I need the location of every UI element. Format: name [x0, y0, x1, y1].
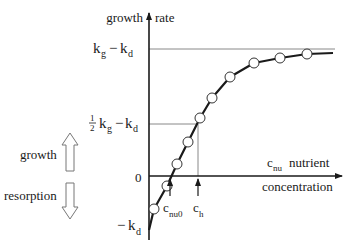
ch-label: c h — [193, 200, 204, 219]
svg-text:k: k — [120, 40, 128, 56]
svg-text:2: 2 — [90, 123, 95, 133]
data-point — [302, 49, 312, 59]
svg-text:d: d — [136, 226, 141, 237]
y-axis-label-growth: growth — [106, 10, 143, 25]
growth-up-arrow-icon — [62, 133, 78, 171]
max-rate-label: k g − k d — [93, 40, 133, 59]
svg-text:concentration: concentration — [262, 179, 333, 194]
svg-text:1: 1 — [90, 113, 95, 123]
x-axis-label: c nu nutrient concentration — [262, 155, 333, 194]
svg-text:d: d — [133, 123, 138, 134]
data-point — [225, 72, 235, 82]
svg-text:d: d — [128, 48, 133, 59]
svg-text:−: − — [117, 217, 125, 233]
resorption-label: resorption — [4, 188, 57, 203]
half-rate-label: 1 2 k g − k d — [89, 113, 138, 134]
svg-text:k: k — [128, 217, 136, 233]
svg-text:k: k — [125, 115, 133, 131]
svg-text:h: h — [199, 209, 204, 219]
data-point — [149, 204, 159, 214]
data-point — [172, 159, 182, 169]
growth-rate-diagram: growth rate k g − k d 1 2 k g − k d 0 − … — [0, 0, 349, 248]
svg-text:nutrient: nutrient — [289, 155, 330, 170]
cnu0-label: c nu0 — [163, 200, 183, 219]
svg-text:g: g — [107, 123, 112, 134]
min-rate-label: − k d — [117, 217, 141, 237]
growth-curve — [149, 53, 333, 230]
svg-text:k: k — [99, 115, 107, 131]
growth-label: growth — [20, 147, 57, 162]
svg-text:−: − — [115, 115, 123, 131]
y-axis-label-rate: rate — [155, 10, 175, 25]
svg-text:−: − — [109, 40, 117, 56]
resorption-down-arrow-icon — [62, 183, 78, 219]
data-point — [183, 137, 193, 147]
data-point — [249, 58, 259, 68]
data-point — [207, 93, 217, 103]
svg-text:g: g — [101, 48, 106, 59]
svg-text:nu: nu — [273, 163, 283, 173]
data-point — [195, 113, 205, 123]
svg-text:k: k — [93, 40, 101, 56]
svg-text:nu0: nu0 — [169, 209, 183, 219]
zero-label: 0 — [135, 170, 142, 185]
data-point — [275, 53, 285, 63]
